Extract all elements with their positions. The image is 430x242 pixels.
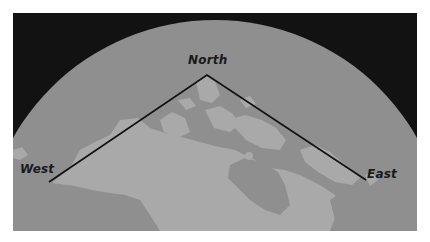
north-label: North <box>188 54 227 66</box>
east-label: East <box>367 168 397 180</box>
map-frame <box>13 13 417 231</box>
island <box>245 152 253 160</box>
globe-map <box>13 13 417 231</box>
west-label: West <box>20 163 54 175</box>
